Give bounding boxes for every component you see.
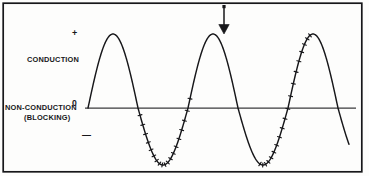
blocking-label: (BLOCKING) [24,114,70,121]
hatch-tick [283,118,287,119]
hatch-tick [278,137,282,138]
hatch-tick [149,149,153,151]
hatch-tick [162,163,163,167]
hatch-tick [183,120,187,121]
hatch-tick [272,151,276,153]
positive-sign-label: + [72,29,77,38]
hatch-tick [280,128,284,129]
arrow-tail-cap [222,5,225,8]
hatch-tick [141,124,145,125]
hatch-tick [188,98,192,99]
hatch-tick [289,96,293,97]
hatch-tick [180,130,184,131]
negative-sign-label: — [82,131,91,140]
waveform-figure: + CONDUCTION 0 NON-CONDUCTION (BLOCKING)… [0,0,369,176]
hatch-tick [164,163,166,167]
hatch-tick [291,83,295,84]
hatch-tick [297,61,301,62]
hatch-tick [303,44,307,46]
hatch-tick [146,142,150,143]
hatch-tick [177,138,181,139]
hatch-tick [138,115,142,116]
non-conduction-label: NON-CONDUCTION [5,104,77,111]
hatch-tick [174,146,178,147]
arrow-head [219,25,229,35]
figure-border [3,3,362,172]
hatch-tick [300,51,304,52]
hatch-tick [152,155,156,157]
waveform-curve-group [88,34,349,165]
hatch-tick [144,133,148,134]
conduction-label: CONDUCTION [27,56,79,63]
waveform-curve [88,34,349,165]
waveform-canvas [0,0,369,176]
hatch-tick [294,71,298,72]
arrow-down-icon [219,5,229,34]
hatch-tick [172,153,176,155]
hatch-tick [185,110,189,111]
hatch-tick [275,145,279,146]
